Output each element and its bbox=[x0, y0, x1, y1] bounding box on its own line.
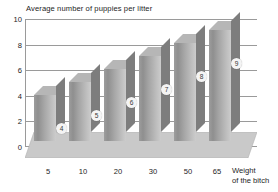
bar-side-face bbox=[231, 12, 240, 132]
x-axis-title-line1: Weight bbox=[232, 166, 278, 176]
x-tick-label: 50 bbox=[173, 167, 203, 176]
bar-front-face bbox=[209, 30, 231, 141]
bar-category-30[interactable]: 7 bbox=[139, 56, 161, 141]
x-axis-title: Weight of the bitch bbox=[232, 166, 278, 185]
bars-layer: 4 5 6 7 8 bbox=[0, 0, 278, 192]
bar-value-label: 5 bbox=[91, 110, 102, 121]
bar-front-face bbox=[34, 95, 56, 141]
bar-value-label: 7 bbox=[161, 84, 172, 95]
bar-value-label: 8 bbox=[196, 71, 207, 82]
bar-side-face bbox=[126, 51, 135, 132]
bar-value-label: 9 bbox=[231, 58, 242, 69]
bar-category-20[interactable]: 6 bbox=[104, 69, 126, 141]
bar-category-5[interactable]: 4 bbox=[34, 95, 56, 141]
bar-side-face bbox=[91, 64, 100, 132]
bar-front-face bbox=[104, 69, 126, 141]
bar-value-label: 6 bbox=[126, 97, 137, 108]
chart-container: Average number of puppies per litter 10 … bbox=[0, 0, 278, 192]
x-tick-label: 10 bbox=[68, 167, 98, 176]
bar-front-face bbox=[139, 56, 161, 141]
x-tick-label: 30 bbox=[138, 167, 168, 176]
x-tick-label: 5 bbox=[33, 167, 63, 176]
bar-value-label: 4 bbox=[56, 123, 67, 134]
bar-category-50[interactable]: 8 bbox=[174, 43, 196, 141]
x-tick-label: 65 bbox=[202, 167, 232, 176]
x-tick-label: 20 bbox=[103, 167, 133, 176]
x-axis-title-line2: of the bitch bbox=[232, 176, 278, 186]
bar-category-10[interactable]: 5 bbox=[69, 82, 91, 141]
bar-front-face bbox=[69, 82, 91, 141]
bar-category-65[interactable]: 9 bbox=[209, 30, 231, 141]
bar-front-face bbox=[174, 43, 196, 141]
